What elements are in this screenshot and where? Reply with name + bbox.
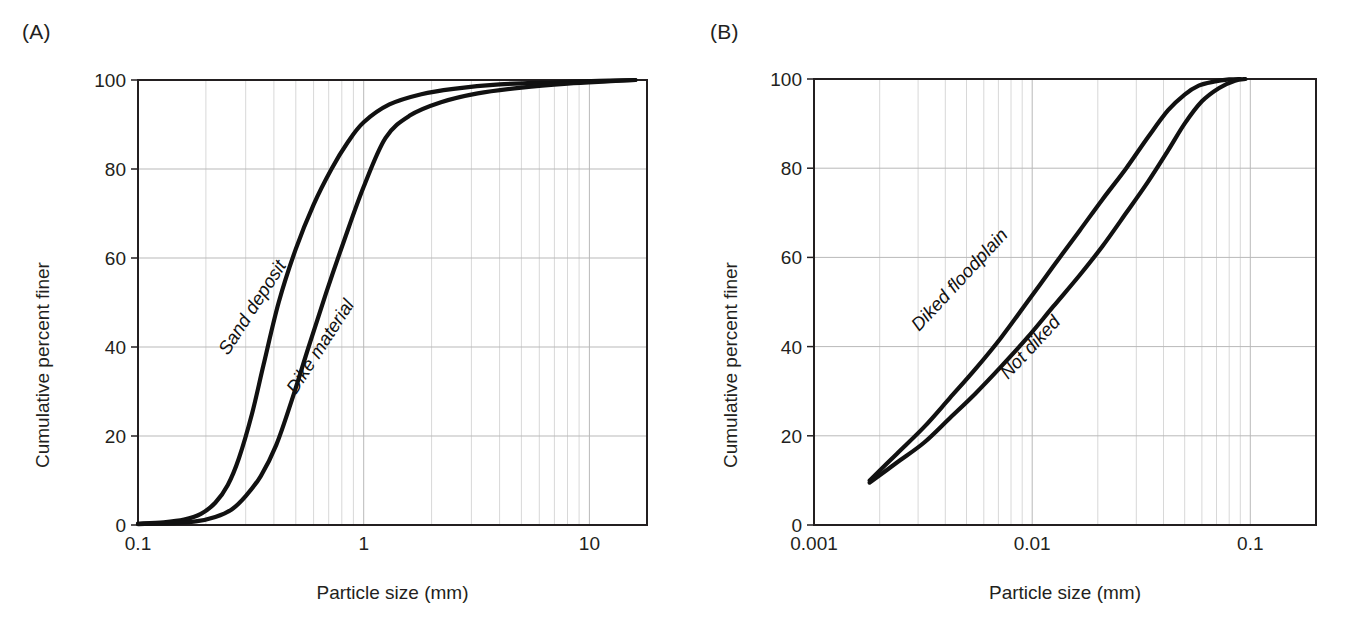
panel-a-plot-area: 0.1110 020406080100 Sand deposit Dike ma… [0,0,674,632]
svg-text:60: 60 [781,247,802,268]
panel-b-y-tickmarks [807,79,814,525]
svg-text:100: 100 [94,70,126,91]
svg-text:20: 20 [105,426,126,447]
panel-a-major-vgridlines [364,80,590,525]
svg-text:80: 80 [105,159,126,180]
svg-text:0.01: 0.01 [1014,533,1051,554]
panel-b: (B) Cumulative percent finer Particle si… [674,0,1347,632]
svg-text:0: 0 [791,515,802,536]
panel-a: (A) Cumulative percent finer Particle si… [0,0,674,632]
svg-text:80: 80 [781,158,802,179]
panel-a-y-tick-labels: 020406080100 [94,70,126,536]
svg-text:0.1: 0.1 [1237,533,1263,554]
panel-b-x-tick-labels: 0.0010.010.1 [790,533,1263,554]
panel-b-y-tick-labels: 020406080100 [770,69,802,536]
svg-text:100: 100 [770,69,802,90]
svg-text:60: 60 [105,248,126,269]
svg-text:20: 20 [781,426,802,447]
panel-a-curve-dike-material [138,80,635,524]
svg-text:1: 1 [358,533,369,554]
panel-b-plot-area: 0.0010.010.1 020406080100 Diked floodpla… [674,0,1347,632]
svg-text:0: 0 [115,515,126,536]
svg-text:40: 40 [105,337,126,358]
svg-text:0.1: 0.1 [125,533,151,554]
panel-a-y-tickmarks [131,80,138,525]
panel-a-horizontal-gridlines [138,169,647,436]
panel-a-x-tick-labels: 0.1110 [125,533,600,554]
svg-text:0.001: 0.001 [790,533,838,554]
panel-a-axis-frame [138,80,647,525]
panel-b-curve-label-diked-floodplain: Diked floodplain [907,224,1012,335]
svg-text:10: 10 [579,533,600,554]
panel-a-curve-sand-deposit [138,80,635,524]
svg-text:40: 40 [781,337,802,358]
